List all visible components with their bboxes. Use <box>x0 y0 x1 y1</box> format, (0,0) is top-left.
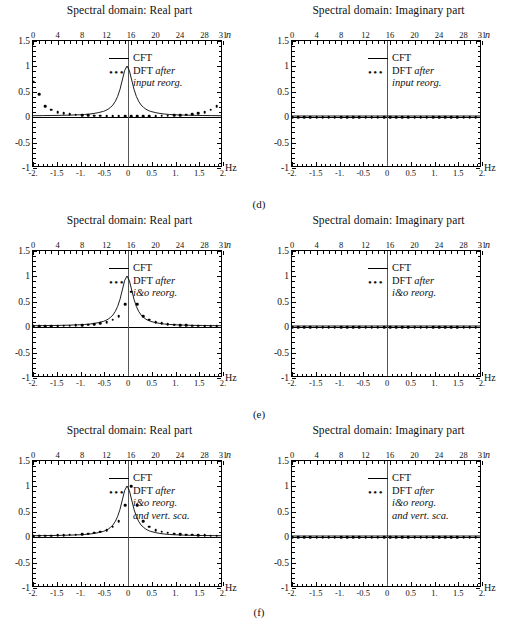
dft-data-point <box>377 116 380 119</box>
x-tick-label: 0.5 <box>146 378 157 388</box>
dft-data-point <box>401 326 404 329</box>
x-tick-label: -0.5 <box>357 168 370 178</box>
dft-data-point <box>352 326 355 329</box>
dft-data-point <box>93 532 96 535</box>
legend-note-line: i&o reorg. <box>109 287 217 300</box>
dft-data-point <box>130 115 133 118</box>
legend-note-indent <box>109 499 129 509</box>
dft-data-point <box>87 323 90 326</box>
dft-data-point <box>173 532 176 535</box>
n-axis-unit-label: n <box>485 29 490 40</box>
dft-data-point <box>124 115 127 118</box>
n-tick-label: 0 <box>290 30 294 40</box>
n-tick-label: 12 <box>361 240 370 250</box>
n-tick-label: 28 <box>200 240 209 250</box>
dft-data-point <box>407 116 410 119</box>
n-tick-label: 16 <box>386 240 395 250</box>
y-tick-label: -1 <box>22 163 30 173</box>
y-tick <box>33 588 37 589</box>
x-axis-unit-label: Hz <box>484 582 496 593</box>
n-tick-label: 8 <box>80 450 84 460</box>
legend-label-dft: DFT after <box>133 485 175 498</box>
dft-data-point <box>303 116 306 119</box>
dft-data-point <box>118 115 121 118</box>
legend-entry-cft: CFT <box>368 52 476 65</box>
x-tick <box>223 582 224 586</box>
dft-data-point <box>438 536 441 539</box>
legend-label-cft: CFT <box>392 262 411 275</box>
dft-data-point <box>370 326 373 329</box>
line-swatch-icon <box>109 268 129 269</box>
legend-note-line: i&o reorg. <box>109 497 217 510</box>
line-swatch-icon <box>109 58 129 59</box>
dft-data-point <box>179 324 182 327</box>
y-tick <box>217 168 221 169</box>
n-tick <box>223 41 224 45</box>
dft-data-point <box>334 326 337 329</box>
n-tick-label: 12 <box>102 240 111 250</box>
legend-label-cft: CFT <box>133 52 152 65</box>
y-tick <box>217 588 221 589</box>
figure-row-d: Spectral domain: Real part -2.-1.5-1.-0.… <box>0 0 518 210</box>
y-tick-label: 1 <box>25 61 30 71</box>
y-tick-label: 1 <box>284 271 289 281</box>
legend-entry-dft: •••DFT after <box>109 485 217 498</box>
dft-data-point <box>315 326 318 329</box>
dft-data-point <box>413 536 416 539</box>
panel-d-real: Spectral domain: Real part -2.-1.5-1.-0.… <box>0 0 259 210</box>
dft-data-point <box>173 323 176 326</box>
dft-data-point <box>456 536 459 539</box>
legend-note-line: i&o reorg. <box>368 287 476 300</box>
dft-data-point <box>303 326 306 329</box>
subfigure-caption: (f) <box>0 606 518 618</box>
n-tick-label: 24 <box>435 240 444 250</box>
legend-note-indent <box>368 512 388 522</box>
n-tick-label: 16 <box>127 450 136 460</box>
y-tick-label: 1 <box>284 61 289 71</box>
dft-data-point <box>340 536 343 539</box>
panel-title: Spectral domain: Imaginary part <box>259 4 518 16</box>
y-tick-label: 0 <box>284 112 289 122</box>
legend: CFT•••DFT after input reorg. <box>368 52 476 90</box>
y-tick <box>33 168 37 169</box>
legend-note-indent <box>109 289 129 299</box>
n-tick-label: 20 <box>410 240 419 250</box>
dft-data-point <box>33 80 34 83</box>
legend-note-line: i&o reorg. <box>368 497 476 510</box>
panel-d-imag: Spectral domain: Imaginary part -2.-1.5-… <box>259 0 518 210</box>
x-tick-label: -0.5 <box>98 588 111 598</box>
dft-data-point <box>160 530 163 533</box>
dft-data-point <box>395 116 398 119</box>
n-tick-label: 4 <box>55 450 59 460</box>
plot-area: -2.-1.5-1.-0.500.51.1.52.048121620242831… <box>32 40 222 167</box>
dft-data-point <box>346 116 349 119</box>
legend-entry-cft: CFT <box>109 472 217 485</box>
dft-data-point <box>401 116 404 119</box>
dft-data-point <box>191 113 194 116</box>
n-tick-label: 8 <box>80 240 84 250</box>
dft-data-point <box>209 325 212 328</box>
n-tick-label: 16 <box>127 30 136 40</box>
dft-data-point <box>216 325 219 328</box>
legend: CFT•••DFT after i&o reorg. and vert. sca… <box>109 472 217 522</box>
dft-data-point <box>327 326 330 329</box>
dft-data-point <box>340 116 343 119</box>
n-tick-label: 8 <box>339 240 343 250</box>
dft-data-point <box>389 326 392 329</box>
dft-data-point <box>136 303 139 306</box>
dft-data-point <box>111 319 114 322</box>
legend-note-indent <box>109 512 129 522</box>
dft-data-point <box>456 116 459 119</box>
dft-data-point <box>327 536 330 539</box>
dft-data-point <box>118 315 121 318</box>
dft-data-point <box>450 326 453 329</box>
dots-swatch-icon: ••• <box>368 487 388 497</box>
dft-data-point <box>38 325 41 328</box>
legend-note-text: and vert. sca. <box>133 510 190 523</box>
n-tick-label: 28 <box>459 30 468 40</box>
y-tick-label: 0.5 <box>18 297 30 307</box>
dft-data-point <box>297 536 300 539</box>
dft-data-point <box>62 534 65 537</box>
dft-data-point <box>413 326 416 329</box>
plot-area: -2.-1.5-1.-0.500.51.1.52.048121620242831… <box>32 460 222 587</box>
